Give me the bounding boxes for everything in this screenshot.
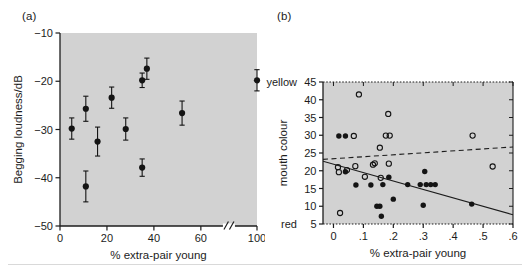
panel-b-y-tick-label: 45 — [304, 76, 316, 88]
panel-b-x-tick-label: .5 — [478, 230, 487, 242]
panel-b-data-point-filled — [421, 202, 426, 207]
panel-b-data-point-filled — [368, 182, 373, 187]
panel-a-data-point — [139, 77, 145, 83]
panel-b-x-tick-label: .3 — [419, 230, 428, 242]
panel-b-y-tick-label: 40 — [304, 94, 316, 106]
panel-b-data-point-filled — [418, 182, 423, 187]
panel-a-y-axis-title: Begging loudness/dB — [12, 75, 24, 184]
panel-b-x-tick-label: .6 — [508, 230, 517, 242]
panel-b-data-point-filled — [336, 133, 341, 138]
panel-a-data-point — [83, 106, 89, 112]
panel-b-data-point-filled — [422, 169, 427, 174]
panel-a-data-point — [109, 95, 115, 101]
panel-b-x-axis-title: % extra-pair young — [370, 247, 467, 259]
panel-a-label: (a) — [22, 10, 36, 22]
panel-a-data-point — [94, 138, 100, 144]
panel-b-data-point-filled — [343, 133, 348, 138]
panel-b-data-point-filled — [469, 201, 474, 206]
panel-b-data-point-filled — [405, 182, 410, 187]
panel-a-data-point — [69, 125, 75, 131]
panel-b-data-point-filled — [343, 169, 348, 174]
panel-a-x-tick-label: 20 — [101, 232, 113, 244]
panel-a-data-point — [144, 66, 150, 72]
panel-a-x-tick-label: 0 — [57, 232, 63, 244]
panel-b-data-point-filled — [377, 204, 382, 209]
panel-a: (a) −10−20−30−40−500204060100% extra-pai… — [0, 0, 265, 268]
panel-a-y-tick-label: −30 — [34, 124, 53, 136]
panel-a-data-point — [123, 126, 129, 132]
panel-b-x-tick-label: .2 — [389, 230, 398, 242]
panel-a-y-tick-label: −20 — [34, 75, 53, 87]
panel-a-x-tick-label: 40 — [148, 232, 160, 244]
panel-b-y-tick-label: 25 — [304, 147, 316, 159]
panel-b-label: (b) — [277, 10, 291, 22]
figure-bottom-divider — [8, 264, 522, 265]
panel-b-yellow-label: yellow — [266, 76, 297, 88]
panel-a-y-tick-label: −40 — [34, 172, 53, 184]
panel-b-data-point-filled — [380, 182, 385, 187]
panel-b: (b) 510152025303540450.1.2.3.4.5.6yellow… — [265, 0, 530, 268]
panel-a-chart: −10−20−30−40−500204060100% extra-pair yo… — [0, 0, 265, 268]
panel-a-plot-area — [60, 33, 257, 226]
panel-b-red-label: red — [281, 218, 297, 230]
panel-a-data-point — [139, 165, 145, 171]
panel-b-data-point-filled — [433, 182, 438, 187]
panel-a-data-point — [179, 110, 185, 116]
panel-b-x-tick-label: .4 — [449, 230, 458, 242]
panel-a-x-tick-label: 100 — [248, 232, 265, 244]
panel-b-x-tick-label: .1 — [359, 230, 368, 242]
panel-a-y-tick-label: −50 — [34, 220, 53, 232]
panel-a-data-point — [254, 77, 260, 83]
panel-a-y-tick-label: −10 — [34, 27, 53, 39]
panel-b-y-tick-label: 30 — [304, 129, 316, 141]
panel-b-data-point-filled — [391, 196, 396, 201]
panel-b-y-tick-label: 35 — [304, 112, 316, 124]
figure-container: (a) −10−20−30−40−500204060100% extra-pai… — [0, 0, 530, 268]
panel-a-x-tick-label: 60 — [195, 232, 207, 244]
panel-b-y-axis-title: mouth colour — [277, 120, 289, 187]
panel-b-y-tick-label: 10 — [304, 200, 316, 212]
panel-b-data-point-filled — [386, 174, 391, 179]
panel-b-y-tick-label: 5 — [310, 218, 316, 230]
panel-b-y-tick-label: 20 — [304, 165, 316, 177]
panel-b-data-point-filled — [353, 182, 358, 187]
panel-b-data-point-filled — [379, 213, 384, 218]
panel-a-data-point — [83, 183, 89, 189]
panel-b-x-tick-label: 0 — [330, 230, 336, 242]
panel-b-y-tick-label: 15 — [304, 183, 316, 195]
panel-a-x-axis-title: % extra-pair young — [110, 249, 207, 261]
panel-b-chart: 510152025303540450.1.2.3.4.5.6yellowred%… — [265, 0, 530, 268]
